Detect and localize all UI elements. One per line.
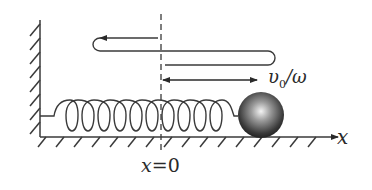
path-right-loop — [268, 51, 275, 65]
motion-path — [93, 38, 275, 65]
amplitude-label: υ0/ω — [268, 66, 307, 91]
origin-label-eq: =0 — [152, 154, 180, 176]
origin-label: x=0 — [141, 154, 180, 176]
oscillator-diagram — [0, 0, 372, 190]
amplitude-label-rest: /ω — [286, 66, 307, 87]
ball — [238, 92, 284, 138]
amplitude-label-sub: 0 — [279, 78, 286, 91]
spring — [40, 100, 238, 131]
fixed-wall — [30, 20, 40, 137]
x-axis-label: x — [337, 125, 348, 149]
floor — [38, 137, 338, 147]
origin-label-var: x — [141, 154, 152, 176]
amplitude-label-v: υ — [268, 66, 279, 87]
path-left-loop — [93, 38, 100, 51]
